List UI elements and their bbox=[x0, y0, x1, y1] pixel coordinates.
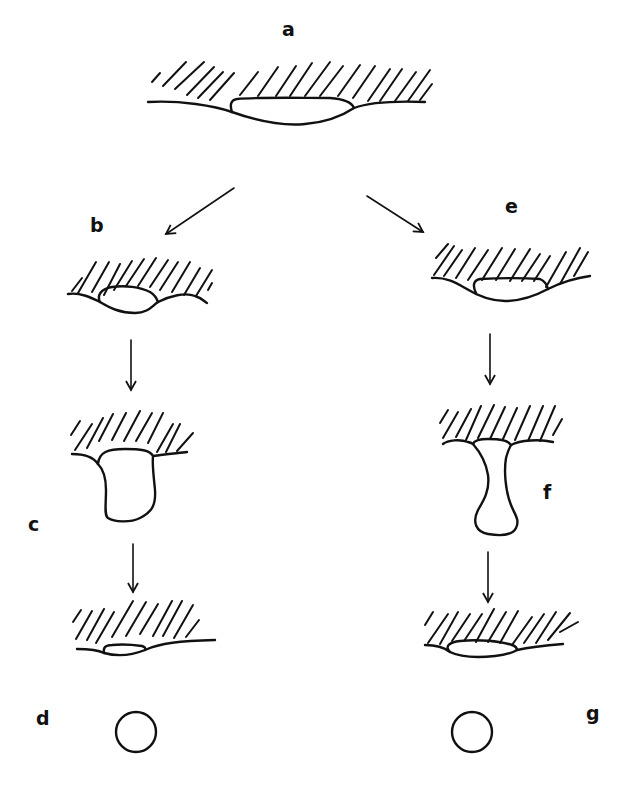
column-inclusion-f bbox=[473, 439, 517, 535]
hatch-surface-d bbox=[73, 601, 199, 643]
inclusion-g bbox=[448, 640, 517, 652]
hatch-surface-c bbox=[71, 411, 193, 452]
surface-line-c bbox=[72, 454, 98, 464]
panel-label-c: c bbox=[28, 515, 39, 534]
panel-d-drawing bbox=[73, 601, 215, 752]
panel-a-drawing bbox=[148, 62, 432, 125]
diagram-canvas bbox=[0, 0, 632, 793]
panel-label-f: f bbox=[543, 483, 551, 502]
panel-label-e: e bbox=[505, 197, 518, 216]
panel-g-drawing bbox=[425, 609, 578, 752]
panel-e-drawing bbox=[432, 244, 590, 301]
panel-c-drawing bbox=[71, 411, 193, 521]
surface-line-f-left bbox=[443, 440, 473, 444]
panel-f-drawing bbox=[440, 405, 562, 535]
detached-sphere-g bbox=[452, 712, 492, 752]
interface-line-g bbox=[425, 644, 563, 657]
interface-line-b bbox=[68, 294, 207, 313]
interface-line-a bbox=[148, 102, 425, 125]
column-inclusion-c bbox=[98, 449, 155, 521]
panel-label-d: d bbox=[36, 709, 50, 728]
hatch-surface-g bbox=[425, 609, 578, 645]
inclusion-b bbox=[99, 286, 158, 302]
panel-b-drawing bbox=[68, 258, 212, 313]
inclusion-a bbox=[231, 98, 354, 112]
panel-label-a: a bbox=[282, 20, 295, 39]
hatch-surface-f bbox=[440, 405, 562, 441]
detached-sphere-d bbox=[116, 712, 156, 752]
hatch-surface-a bbox=[152, 62, 432, 101]
panel-label-g: g bbox=[586, 704, 600, 723]
hatch-surface-b bbox=[72, 258, 212, 296]
arrow-a-to-b bbox=[166, 188, 234, 234]
surface-line-f-right bbox=[511, 440, 553, 445]
arrow-a-to-e bbox=[367, 196, 423, 232]
surface-line-c-right bbox=[153, 452, 187, 456]
hatch-surface-e bbox=[434, 244, 588, 287]
panel-label-b: b bbox=[90, 216, 104, 235]
